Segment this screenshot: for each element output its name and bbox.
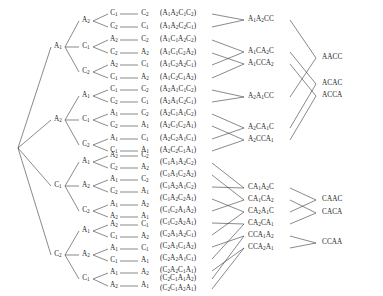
tree-node-level4-1: C1 [141,23,149,30]
edge-level1-level2-0-2 [65,47,79,72]
class-label-10: CCA1A2 [248,232,274,239]
tree-node-level3-18: A2 [110,221,118,228]
tree-node-level4-18: C1 [141,221,149,228]
tree-node-level4-9: A1 [141,122,149,129]
edge-level1-level2-3-2 [65,255,79,279]
permutation-6: (A2A1C1C2) [160,86,196,93]
edge-perm-class-3-0 [212,90,244,97]
edge-class-word-1-1 [290,84,316,128]
permutation-11: (A2C2C1A1) [160,147,196,154]
class-label-1: A1CA2C [248,48,274,55]
edge-class-word-1-0 [290,52,316,84]
tree-node-level4-14: C2 [141,176,149,183]
tree-node-level4-8: C2 [141,110,149,117]
word-label-1: ACAC [322,80,342,87]
edge-perm-class-3-1 [212,97,244,102]
tree-node-level2-0: A2 [82,17,90,24]
class-label-0: A1A2CC [248,16,274,23]
word-label-4: CACA [322,209,342,216]
edge-perm-class-10-1 [212,236,244,279]
edge-class-word-5-0 [290,236,316,243]
tree-node-level2-11: C1 [82,275,90,282]
edge-class-word-4-0 [290,200,316,213]
permutation-23: (C2C1A2A1) [160,285,196,292]
edge-level2-level3-6-1 [93,162,108,168]
permutation-tree-figure: A1A2C1C2A2C1C2A1C1C2A1A2C2A1A2C1C1C2A2C2… [0,0,383,296]
tree-node-level3-5: C1 [110,74,118,81]
edge-perm-class-5-0 [212,126,244,140]
edge-root-level1-2 [18,148,51,186]
tree-node-level3-19: C1 [110,233,118,240]
tree-node-level3-7: C2 [110,98,118,105]
tree-node-level2-6: A1 [82,158,90,165]
tree-node-level2-8: C2 [82,207,90,214]
edge-perm-class-6-0 [212,163,244,188]
edge-level2-level3-5-1 [93,145,108,151]
tree-node-level3-14: A1 [110,176,118,183]
tree-node-level3-23: A2 [110,282,118,289]
tree-node-level2-3: A1 [82,92,90,99]
tree-node-level4-15: A1 [141,188,149,195]
permutation-5: (A1C2C1A2) [160,74,196,81]
edge-perm-class-0-0 [212,14,244,20]
tree-node-level4-20: C1 [141,245,149,252]
edge-level2-level3-0-1 [93,21,108,27]
edge-level2-level3-2-0 [93,65,108,72]
edge-level2-level3-7-1 [93,186,108,192]
edge-level2-level3-3-0 [93,90,108,96]
edge-perm-class-4-0 [212,114,244,128]
edge-perm-class-8-0 [212,199,244,212]
edge-level2-level3-10-1 [93,255,108,261]
edge-level2-level3-1-1 [93,47,108,53]
edge-level1-level2-2-2 [65,186,79,211]
tree-node-level3-10: A1 [110,135,118,142]
tree-node-level4-21: A1 [141,257,149,264]
edge-perm-class-0-1 [212,20,244,27]
permutation-16: (C1C2A1A2) [160,207,196,214]
tree-node-level4-5: A2 [141,74,149,81]
edge-level2-level3-9-0 [93,225,108,231]
tree-node-level2-10: A2 [82,251,90,258]
edge-level2-level3-11-1 [93,279,108,286]
word-label-2: ACCA [322,92,342,99]
edge-perm-class-4-1 [212,128,244,139]
edge-perm-class-11-0 [212,248,244,271]
edge-root-level1-3 [18,148,51,255]
permutation-4: (A1C2A2C1) [160,61,196,68]
tree-node-level4-0: C2 [141,10,149,17]
edge-level1-level2-0-0 [65,21,79,47]
edge-class-word-4-1 [290,213,316,224]
tree-node-level2-2: C2 [82,68,90,75]
edge-level2-level3-9-1 [93,231,108,237]
class-label-3: A2A1CC [248,93,274,100]
edge-level1-level2-2-0 [65,162,79,186]
permutation-19: (C2A1C1A2) [160,243,196,250]
edge-level2-level3-4-1 [93,120,108,126]
tree-node-level3-21: C1 [110,257,118,264]
class-label-8: CA2A1C [248,208,274,215]
tree-node-level3-8: A1 [110,110,118,117]
permutation-20: (C2A2A1C1) [160,255,196,262]
edge-perm-class-7-1 [212,200,244,211]
permutation-10: (A2C2A1C1) [160,135,196,142]
edge-class-word-3-1 [290,200,316,212]
edge-perm-class-11-1 [212,248,244,289]
permutation-12: (C1A1A2C2) [160,159,196,166]
edge-perm-class-10-0 [212,236,244,247]
class-label-9: CA2CA1 [248,220,274,227]
permutation-2: (A1C1A2C2) [160,36,196,43]
permutation-15: (C1A2C2A1) [160,195,196,202]
tree-node-level2-5: C2 [82,141,90,148]
tree-node-level2-1: C1 [82,43,90,50]
tree-node-level3-12: A2 [110,152,118,159]
edge-level1-level2-1-0 [65,96,79,120]
edge-level2-level3-7-0 [93,180,108,186]
edge-level2-level3-6-0 [93,156,108,162]
tree-node-level3-9: C2 [110,122,118,129]
edge-class-word-2-0 [290,64,316,96]
word-label-3: CAAC [322,196,342,203]
edge-class-word-3-0 [290,188,316,200]
edge-perm-class-9-1 [212,224,244,259]
permutation-7: (A2A1C2C1) [160,98,196,105]
tree-node-level3-13: C2 [110,164,118,171]
